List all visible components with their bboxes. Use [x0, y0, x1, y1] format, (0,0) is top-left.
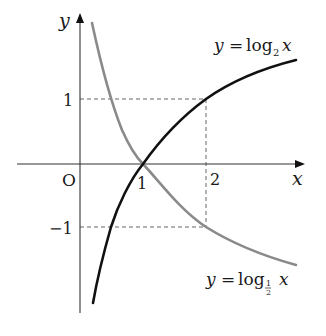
x-tick-1: 1: [137, 174, 147, 193]
label-log2-lhs: y: [213, 35, 224, 55]
label-log2-fn: log: [246, 35, 273, 55]
label-loghalf-base-den: 2: [266, 288, 271, 297]
label-loghalf-eq: =: [221, 269, 235, 289]
label-loghalf-base-num: 1: [266, 279, 271, 288]
label-loghalf-fn: log: [238, 269, 265, 289]
label-loghalf-lhs: y: [205, 269, 216, 289]
label-log2-arg: x: [282, 35, 292, 55]
y-axis-label: y: [58, 9, 70, 31]
label-log2-base: 2: [273, 47, 279, 58]
log-function-graph: y x O 1 2 1 −1 y = log 2 x y = log 1 2 x: [0, 0, 326, 336]
label-loghalf-arg: x: [279, 269, 289, 289]
curve-log-half: [92, 23, 296, 265]
y-tick-1: 1: [63, 91, 73, 110]
label-log2: y = log 2 x: [213, 35, 292, 58]
x-tick-2: 2: [210, 170, 220, 189]
curve-log2: [93, 60, 296, 303]
label-log2-eq: =: [229, 35, 243, 55]
label-log-half: y = log 1 2 x: [205, 269, 289, 297]
origin-label: O: [62, 170, 76, 190]
x-axis-label: x: [292, 167, 303, 189]
y-tick-neg1: −1: [49, 219, 73, 238]
